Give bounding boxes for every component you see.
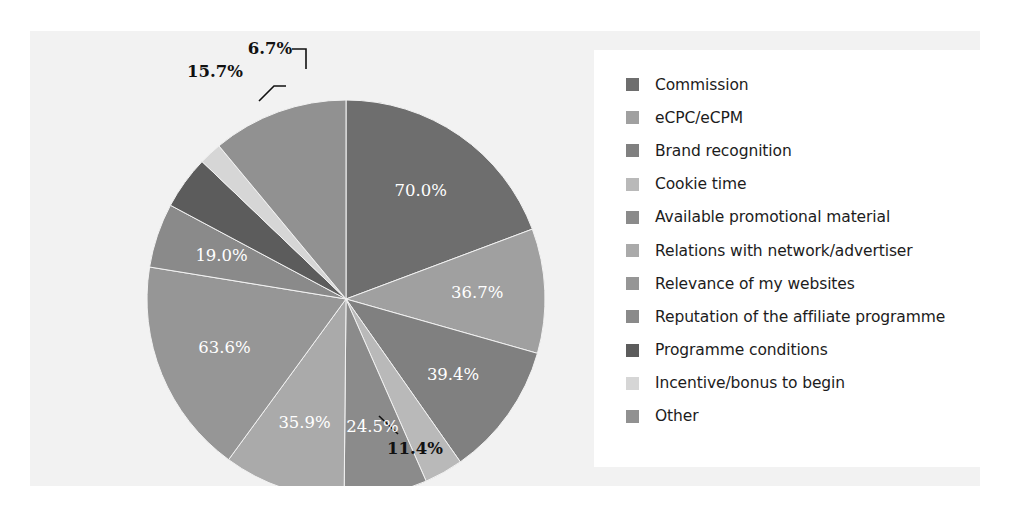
legend-item-label: Incentive/bonus to begin: [655, 374, 845, 392]
legend-item[interactable]: Cookie time: [626, 168, 986, 201]
legend-item[interactable]: Other: [626, 400, 986, 433]
legend-color-swatch-icon: [626, 211, 639, 224]
pie-label-leader-line: [292, 49, 306, 69]
legend-color-swatch-icon: [626, 111, 639, 124]
legend-item-label: Brand recognition: [655, 142, 792, 160]
legend-item-label: Relations with network/advertiser: [655, 242, 913, 260]
legend-color-swatch-icon: [626, 78, 639, 91]
legend-item-label: Other: [655, 407, 699, 425]
legend-item[interactable]: Programme conditions: [626, 334, 986, 367]
pie-slice-value-label: 70.0%: [395, 181, 447, 200]
legend-color-swatch-icon: [626, 344, 639, 357]
pie-slice-value-label: 24.5%: [346, 417, 398, 436]
legend-color-swatch-icon: [626, 144, 639, 157]
legend-item[interactable]: Relevance of my websites: [626, 267, 986, 300]
chart-plot-area: 70.0%36.7%39.4%11.4%24.5%35.9%63.6%19.0%…: [30, 31, 980, 486]
pie-slice-value-label: 11.4%: [387, 439, 443, 458]
legend-item-label: Available promotional material: [655, 208, 890, 226]
pie-chart-container: 70.0%36.7%39.4%11.4%24.5%35.9%63.6%19.0%…: [30, 31, 624, 486]
legend-item[interactable]: Incentive/bonus to begin: [626, 367, 986, 400]
pie-slice-value-label: 36.7%: [451, 283, 503, 302]
legend-item[interactable]: Reputation of the affiliate programme: [626, 300, 986, 333]
legend-color-swatch-icon: [626, 277, 639, 290]
legend-item[interactable]: Brand recognition: [626, 134, 986, 167]
legend-item-label: Relevance of my websites: [655, 275, 855, 293]
legend-color-swatch-icon: [626, 178, 639, 191]
legend-color-swatch-icon: [626, 377, 639, 390]
pie-slice-value-label: 15.7%: [187, 62, 243, 81]
legend-item[interactable]: Commission: [626, 68, 986, 101]
legend-item[interactable]: Relations with network/advertiser: [626, 234, 986, 267]
legend-color-swatch-icon: [626, 410, 639, 423]
legend-item-label: Reputation of the affiliate programme: [655, 308, 945, 326]
legend-item-label: Programme conditions: [655, 341, 828, 359]
legend-item[interactable]: Available promotional material: [626, 201, 986, 234]
pie-slice-value-label: 63.6%: [198, 338, 250, 357]
legend-item-label: eCPC/eCPM: [655, 109, 743, 127]
legend-item-label: Commission: [655, 76, 749, 94]
pie-slice-value-label: 35.9%: [278, 413, 330, 432]
legend-item[interactable]: eCPC/eCPM: [626, 101, 986, 134]
legend-color-swatch-icon: [626, 310, 639, 323]
legend-panel: CommissioneCPC/eCPMBrand recognitionCook…: [594, 50, 986, 467]
pie-label-leader-line: [259, 86, 286, 101]
pie-slice-value-label: 39.4%: [427, 365, 479, 384]
pie-slice-value-label: 6.7%: [248, 39, 293, 58]
pie-slice-value-label: 19.0%: [195, 246, 247, 265]
chart-screenshot: 70.0%36.7%39.4%11.4%24.5%35.9%63.6%19.0%…: [0, 0, 1010, 517]
legend-color-swatch-icon: [626, 244, 639, 257]
legend-item-label: Cookie time: [655, 175, 746, 193]
legend-items-list: CommissioneCPC/eCPMBrand recognitionCook…: [626, 68, 986, 433]
pie-chart-svg: 70.0%36.7%39.4%11.4%24.5%35.9%63.6%19.0%…: [30, 31, 624, 486]
